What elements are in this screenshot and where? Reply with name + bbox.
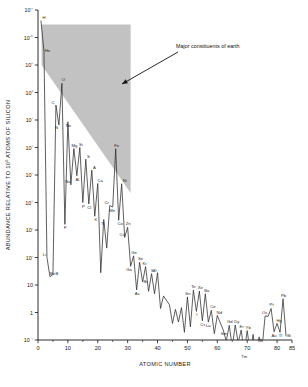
y-axis-title-pre: ABUNDANCE RELATIVE TO 10 <box>5 162 11 251</box>
element-label-gd: Gd <box>227 319 233 324</box>
element-label-as: As <box>135 291 140 296</box>
element-label-ba: Ba <box>204 288 210 293</box>
element-label-w: W <box>258 338 262 343</box>
element-label-b: B <box>56 271 59 276</box>
element-label-i: I <box>196 312 197 317</box>
element-label-zr: Zr <box>153 268 158 273</box>
x-axis-title: ATOMIC NUMBER <box>139 361 191 367</box>
y-tick-label: 10⁷ <box>26 117 34 123</box>
element-label-si: Si <box>79 142 83 147</box>
element-label-os: Os <box>262 310 267 315</box>
element-label-au: Au <box>272 333 278 338</box>
element-label-ti: Ti <box>101 221 104 226</box>
element-label-ga: Ga <box>126 267 132 272</box>
element-label-ce: Ce <box>210 304 216 309</box>
y-tick-label: 10⁹ <box>25 62 33 68</box>
element-label-xe: Xe <box>198 285 204 290</box>
element-label-ne: Ne <box>66 123 72 128</box>
element-label-mn: Mn <box>109 208 115 213</box>
element-label-pb: Pb <box>281 293 287 298</box>
element-label-nd: Nd <box>217 310 223 315</box>
element-label-he: He <box>45 48 51 53</box>
y-tick-label: 10⁻¹ <box>24 337 34 343</box>
element-label-ni: Ni <box>123 178 127 183</box>
element-label-ca: Ca <box>98 178 104 183</box>
element-label-al: Al <box>75 177 79 182</box>
element-label-mg: Mg <box>71 143 77 148</box>
element-label-fe: Fe <box>114 143 120 148</box>
element-label-p: P <box>82 204 85 209</box>
x-tick-label: 20 <box>95 345 101 351</box>
element-label-a: A <box>93 165 96 170</box>
abundance-chart-figure: 10⁻¹11010²10³10⁴10⁵10⁶10⁷10⁸10⁹10¹⁰10¹¹ … <box>0 0 308 387</box>
element-label-na: Na <box>65 179 71 184</box>
element-label-k: K <box>94 217 97 222</box>
x-tick-label: 85 <box>289 345 295 351</box>
element-label-h: H <box>42 15 45 20</box>
x-tick-label: 0 <box>36 345 39 351</box>
element-label-er: Er <box>240 324 245 329</box>
element-label-bi: Bi <box>287 333 291 338</box>
y-tick-label: 10³ <box>26 227 34 233</box>
x-tick-label: 60 <box>214 345 220 351</box>
y-tick-label: 10¹¹ <box>24 7 33 13</box>
element-label-cs: Cs <box>200 322 205 327</box>
element-label-s: S <box>87 154 90 159</box>
x-tick-label: 10 <box>65 345 71 351</box>
element-label-co: Co <box>118 221 124 226</box>
element-label-la: La <box>206 323 211 328</box>
element-label-yb: Yb <box>246 325 252 330</box>
element-label-hg: Hg <box>276 318 282 323</box>
element-label-tm: Tm <box>241 354 248 359</box>
element-label-cl: Cl <box>87 205 91 210</box>
x-tick-label: 40 <box>154 345 160 351</box>
element-label-te: Te <box>191 284 196 289</box>
y-axis-title: ABUNDANCE RELATIVE TO 106 ATOMS OF SILIC… <box>4 100 12 251</box>
y-axis-ticks: 10⁻¹11010²10³10⁴10⁵10⁶10⁷10⁸10⁹10¹⁰10¹¹ <box>24 7 38 343</box>
x-axis-ticks: 0102030405060708085 <box>36 340 295 351</box>
element-label-tl: Tl <box>279 333 283 338</box>
element-label-kr: Kr <box>142 261 147 266</box>
x-tick-label: 30 <box>125 345 131 351</box>
y-tick-label: 10⁶ <box>25 145 33 151</box>
element-label-sm: Sm <box>221 331 228 336</box>
x-tick-label: 80 <box>274 345 280 351</box>
element-label-pt: Pt <box>270 302 275 307</box>
y-tick-label: 10⁸ <box>25 90 33 96</box>
element-label-br: Br <box>143 279 148 284</box>
plot-canvas: 10⁻¹11010²10³10⁴10⁵10⁶10⁷10⁸10⁹10¹⁰10¹¹ … <box>0 0 308 387</box>
y-axis-title-post: ATOMS OF SILICON <box>5 100 11 160</box>
element-label-sn: Sn <box>185 291 191 296</box>
annotation-label: Major constituents of earth <box>176 43 240 49</box>
y-tick-label: 10¹⁰ <box>24 35 33 41</box>
annotation-major-constituents: Major constituents of earth <box>122 43 240 84</box>
y-tick-label: 10⁴ <box>25 200 33 206</box>
element-label-n: N <box>55 125 58 130</box>
element-label-cr: Cr <box>105 200 110 205</box>
y-tick-label: 10⁵ <box>25 172 33 178</box>
y-tick-label: 10 <box>27 282 33 288</box>
x-tick-label: 70 <box>244 345 250 351</box>
element-label-f: F <box>64 225 67 230</box>
element-label-cu: Cu <box>119 232 125 237</box>
y-tick-label: 1 <box>30 310 33 316</box>
element-label-zn: Zn <box>126 221 132 226</box>
y-tick-label: 10² <box>26 255 34 261</box>
x-tick-label: 50 <box>184 345 190 351</box>
element-label-c: C <box>51 100 54 105</box>
element-label-li: Li <box>43 252 46 257</box>
element-label-ge: Ge <box>131 250 137 255</box>
